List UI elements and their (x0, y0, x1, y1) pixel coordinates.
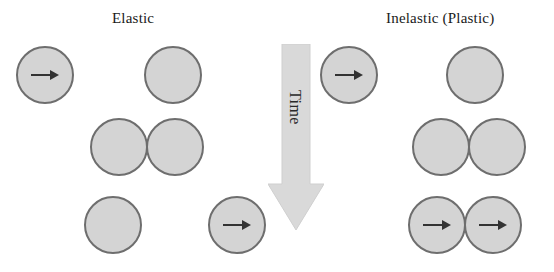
time-axis-label: Time (280, 90, 304, 160)
ball-inelastic-before-right (446, 46, 504, 104)
ball-inelastic-after-left (408, 196, 466, 254)
velocity-arrow-icon (422, 218, 452, 232)
ball-inelastic-contact-left (412, 118, 470, 176)
ball-elastic-after-right (208, 196, 266, 254)
ball-elastic-before-left (16, 46, 74, 104)
ball-inelastic-contact-right (468, 118, 526, 176)
velocity-arrow-icon (334, 68, 364, 82)
velocity-arrow-icon (478, 218, 508, 232)
inelastic-column-title: Inelastic (Plastic) (386, 10, 494, 27)
ball-elastic-contact-left (90, 118, 148, 176)
ball-inelastic-before-left (320, 46, 378, 104)
collision-diagram: Elastic Inelastic (Plastic) Time (0, 0, 554, 272)
velocity-arrow-icon (30, 68, 60, 82)
ball-elastic-after-left (84, 196, 142, 254)
velocity-arrow-icon (222, 218, 252, 232)
elastic-column-title: Elastic (112, 10, 154, 27)
ball-inelastic-after-right (464, 196, 522, 254)
ball-elastic-before-right (144, 46, 202, 104)
ball-elastic-contact-right (146, 118, 204, 176)
